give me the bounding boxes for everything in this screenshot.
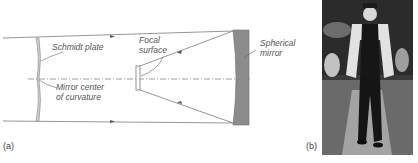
top-incoming-ray [3,31,233,38]
focal-surface-label-1: Focal [139,36,160,45]
bottom-ray-arrow-icon [110,120,115,123]
schmidt-leader [41,52,63,61]
photo-svg [322,0,413,155]
center-leader [39,80,57,88]
panel-b-label: (b) [306,141,317,151]
spherical-mirror-label-2: mirror [260,49,282,58]
focal-surface [136,66,140,90]
schmidt-telescope-diagram: Schmidt plate Mirror center of curvature… [0,0,320,163]
top-ray-arrow-icon [110,35,115,38]
optical-path-svg [0,0,320,163]
focal-surface-label-2: surface [139,46,167,55]
portrait-photo [322,0,413,155]
mirror-center-label-1: Mirror center [56,83,104,92]
panel-a-label: (a) [3,141,14,151]
schmidt-plate [36,38,41,121]
schmidt-plate-label: Schmidt plate [52,43,104,52]
focal-leader [141,57,163,76]
bottom-converging-ray [140,90,233,123]
spherical-mirror-label-1: Spherical [260,39,295,48]
mirror-center-label-2: of curvature [56,93,101,102]
spherical-mirror [233,30,249,125]
